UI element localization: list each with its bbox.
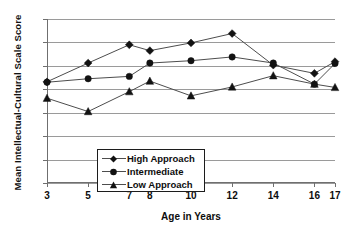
x-axis-tick-label: 17 bbox=[322, 190, 348, 201]
legend-label: Low Approach bbox=[127, 179, 193, 190]
x-axis-tick-mark bbox=[88, 183, 89, 187]
data-point-diamond bbox=[84, 59, 92, 67]
x-axis-tick-label: 12 bbox=[219, 190, 245, 201]
data-point-circle bbox=[126, 73, 132, 79]
data-point-diamond bbox=[146, 47, 154, 55]
legend-item-low-approach: Low Approach bbox=[101, 178, 204, 191]
x-axis-tick-mark bbox=[232, 183, 233, 187]
x-axis-tick-mark bbox=[47, 183, 48, 187]
x-axis-title: Age in Years bbox=[47, 211, 335, 222]
data-point-circle bbox=[85, 76, 91, 82]
data-point-circle bbox=[44, 79, 50, 85]
x-axis-tick-mark bbox=[314, 183, 315, 187]
data-point-circle bbox=[270, 60, 276, 66]
legend-item-intermediate: Intermediate bbox=[101, 165, 204, 178]
data-point-circle bbox=[332, 60, 338, 66]
data-point-triangle bbox=[269, 72, 277, 79]
plot-area: 98765432 35781012141617 High Approach In… bbox=[47, 19, 335, 183]
data-point-triangle bbox=[146, 77, 154, 84]
data-point-triangle bbox=[43, 94, 51, 101]
data-point-circle bbox=[229, 54, 235, 60]
data-point-diamond bbox=[311, 69, 319, 77]
chart-container: Mean Intellectual-Cultural Scale Score 9… bbox=[0, 0, 351, 237]
data-point-circle bbox=[147, 60, 153, 66]
x-axis-tick-label: 3 bbox=[34, 190, 60, 201]
chart-legend: High Approach Intermediate Low Approach bbox=[97, 149, 205, 192]
diamond-marker-icon bbox=[101, 152, 127, 165]
legend-label: High Approach bbox=[127, 153, 195, 164]
data-point-triangle bbox=[125, 88, 133, 95]
y-axis-title: Mean Intellectual-Cultural Scale Score bbox=[12, 8, 23, 198]
legend-label: Intermediate bbox=[127, 166, 184, 177]
legend-item-high-approach: High Approach bbox=[101, 152, 204, 165]
x-axis-tick-mark bbox=[335, 183, 336, 187]
data-point-circle bbox=[188, 58, 194, 64]
circle-marker-icon bbox=[101, 165, 127, 178]
x-axis-tick-label: 14 bbox=[260, 190, 286, 201]
triangle-marker-icon bbox=[101, 178, 127, 191]
x-axis-tick-mark bbox=[273, 183, 274, 187]
data-point-diamond bbox=[125, 41, 133, 49]
data-point-diamond bbox=[187, 39, 195, 47]
